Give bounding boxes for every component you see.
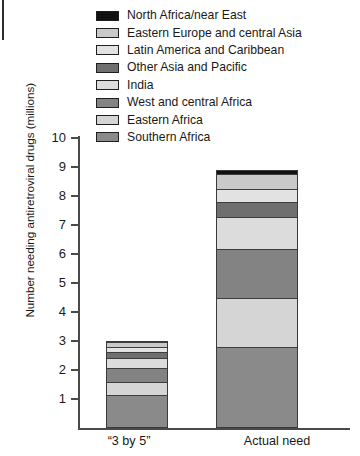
legend-swatch-india — [96, 80, 119, 90]
bar-segment[interactable] — [217, 348, 297, 427]
legend-item: Latin America and Caribbean — [96, 42, 358, 59]
y-tick-label: 9 — [38, 159, 66, 175]
bar-segment[interactable] — [217, 190, 297, 203]
legend-label: Eastern Europe and central Asia — [127, 27, 302, 40]
y-axis-title: Number needing antiretroviral drugs (mil… — [23, 88, 36, 318]
bar-segment[interactable] — [217, 175, 297, 189]
bar-segment[interactable] — [217, 250, 297, 299]
y-axis-ticks: 10987654321 — [0, 0, 80, 456]
bar-segment[interactable] — [217, 203, 297, 219]
bar-3-by-5[interactable] — [106, 341, 168, 428]
legend-swatch-latin-america-caribbean — [96, 45, 119, 55]
legend-label: North Africa/near East — [127, 9, 246, 22]
legend-swatch-eastern-europe-central-asia — [96, 28, 119, 38]
legend-label: West and central Africa — [127, 96, 252, 109]
bar-segment[interactable] — [107, 383, 167, 396]
legend-swatch-other-asia-pacific — [96, 63, 119, 73]
y-tick-label: 6 — [38, 246, 66, 262]
bar-segment[interactable] — [107, 396, 167, 427]
legend-item: North Africa/near East — [96, 7, 358, 24]
legend-swatch-north-africa-near-east — [96, 11, 119, 21]
x-axis-label-3-by-5: “3 by 5” — [69, 434, 189, 448]
legend-item: Other Asia and Pacific — [96, 59, 358, 76]
y-tick-label: 10 — [38, 130, 66, 146]
legend-label: Other Asia and Pacific — [127, 61, 247, 74]
bar-segment[interactable] — [217, 218, 297, 250]
legend-item: West and central Africa — [96, 94, 358, 111]
bar-actual-need[interactable] — [216, 170, 298, 428]
legend-label: Latin America and Caribbean — [127, 44, 284, 57]
y-tick-label: 3 — [38, 333, 66, 349]
legend-item: India — [96, 77, 358, 94]
chart-legend: North Africa/near East Eastern Europe an… — [96, 7, 358, 146]
legend-item: Eastern Europe and central Asia — [96, 24, 358, 41]
x-axis-label-actual-need: Actual need — [217, 434, 337, 448]
y-tick-label: 2 — [38, 362, 66, 378]
legend-item: Eastern Africa — [96, 111, 358, 128]
legend-swatch-eastern-africa — [96, 115, 119, 125]
legend-swatch-west-central-africa — [96, 98, 119, 108]
stacked-bar-chart: North Africa/near East Eastern Europe an… — [0, 0, 360, 456]
x-axis-line — [78, 428, 350, 430]
y-tick-label: 8 — [38, 188, 66, 204]
y-tick-label: 7 — [38, 217, 66, 233]
legend-label: India — [127, 79, 153, 92]
y-tick-label: 5 — [38, 275, 66, 291]
y-tick-label: 4 — [38, 304, 66, 320]
plot-area — [78, 138, 350, 428]
y-tick-label: 1 — [38, 391, 66, 407]
legend-label: Eastern Africa — [127, 114, 203, 127]
bar-segment[interactable] — [107, 359, 167, 369]
bar-segment[interactable] — [107, 369, 167, 383]
bar-segment[interactable] — [217, 299, 297, 348]
